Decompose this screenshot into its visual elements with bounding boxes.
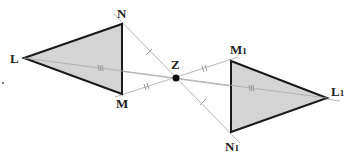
label-L: L [10, 51, 19, 66]
label-N1: N1 [225, 139, 239, 154]
stray-dot [2, 82, 4, 84]
label-N: N [117, 6, 127, 21]
label-Z: Z [171, 57, 180, 72]
center-point-Z [173, 75, 180, 82]
triangle-LMN [24, 24, 122, 94]
label-L1: L1 [331, 84, 345, 99]
label-M: M [116, 96, 128, 111]
label-M1: M1 [230, 42, 247, 57]
reflection-diagram: L N M Z M1 L1 N1 [0, 0, 360, 158]
